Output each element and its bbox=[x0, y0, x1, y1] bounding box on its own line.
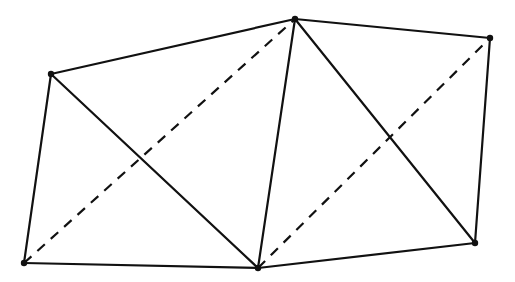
vertex-c-dot bbox=[487, 35, 493, 41]
solid-edge-b-c bbox=[295, 19, 490, 38]
solid-edge-f-a bbox=[24, 74, 51, 263]
solid-edge-e-f bbox=[24, 263, 258, 268]
vertex-b-dot bbox=[292, 16, 298, 22]
dashed-edge-e-c bbox=[258, 38, 490, 268]
solid-edge-a-e bbox=[51, 74, 258, 268]
vertex-e-dot bbox=[255, 265, 261, 271]
solid-edge-d-e bbox=[258, 243, 475, 268]
solid-edge-b-e bbox=[258, 19, 295, 268]
vertex-f-dot bbox=[21, 260, 27, 266]
triangulation-diagram bbox=[0, 0, 515, 282]
dashed-edge-f-b bbox=[24, 19, 295, 263]
vertex-a-dot bbox=[48, 71, 54, 77]
vertex-d-dot bbox=[472, 240, 478, 246]
solid-edge-c-d bbox=[475, 38, 490, 243]
solid-edge-b-d bbox=[295, 19, 475, 243]
solid-edge-a-b bbox=[51, 19, 295, 74]
edges-group bbox=[24, 19, 490, 268]
